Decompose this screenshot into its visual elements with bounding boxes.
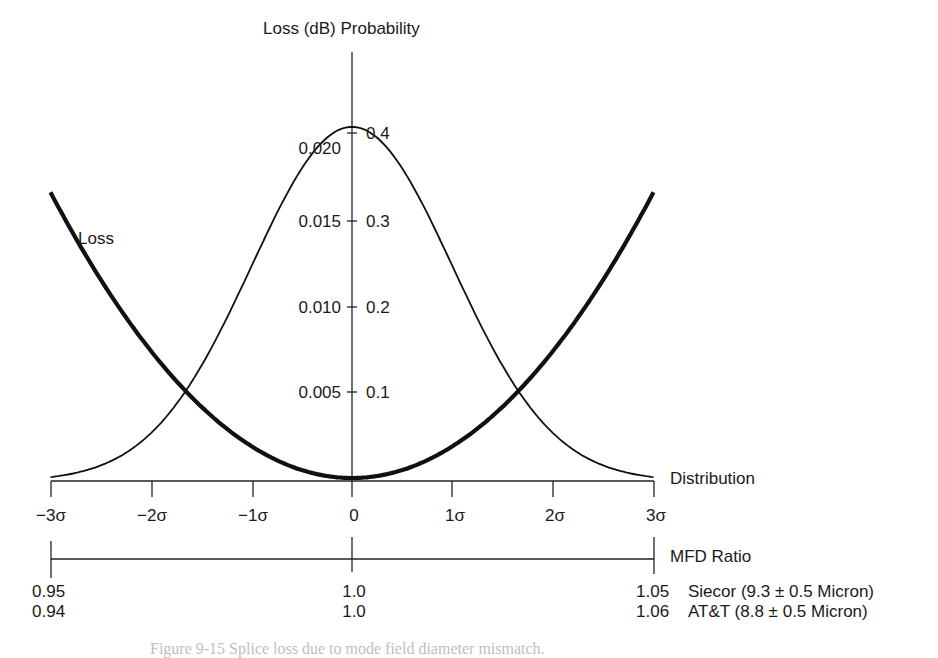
- prob-tick-label: 0.2: [366, 299, 390, 316]
- legend-att: AT&T (8.8 ± 0.5 Micron): [688, 603, 868, 620]
- x-tick-label: 1σ: [445, 507, 465, 524]
- prob-tick-label: 0.4: [366, 125, 390, 142]
- loss-curve-label: Loss: [78, 230, 114, 247]
- loss-tick-label: 0.005: [283, 384, 341, 401]
- mfd-value-att-left: 0.94: [32, 603, 65, 620]
- top-axis-label: Loss (dB) Probability: [263, 20, 420, 37]
- x-tick-label: −3σ: [36, 507, 66, 524]
- chart-canvas: [0, 0, 938, 658]
- mfd-ticks: [51, 537, 654, 578]
- mfd-value-siecor-right: 1.05: [636, 583, 669, 600]
- distribution-label: Distribution: [670, 470, 755, 487]
- x-tick-label: 2σ: [545, 507, 565, 524]
- mfd-value-siecor-left: 0.95: [32, 583, 65, 600]
- prob-tick-label: 0.3: [366, 213, 390, 230]
- mfd-ratio-label: MFD Ratio: [670, 548, 751, 565]
- mfd-value-att-right: 1.06: [636, 603, 669, 620]
- loss-tick-label: 0.010: [283, 299, 341, 316]
- prob-tick-label: 0.1: [366, 384, 390, 401]
- x-ticks: [51, 481, 654, 497]
- x-tick-label: −2σ: [137, 507, 167, 524]
- x-tick-label: 0: [349, 507, 358, 524]
- mfd-value-att-center: 1.0: [342, 603, 366, 620]
- legend-siecor: Siecor (9.3 ± 0.5 Micron): [688, 583, 874, 600]
- figure-caption: Figure 9-15 Splice loss due to mode fiel…: [150, 640, 545, 658]
- loss-tick-label: 0.020: [283, 140, 341, 157]
- x-tick-label: −1σ: [238, 507, 268, 524]
- mfd-value-siecor-center: 1.0: [342, 583, 366, 600]
- loss-tick-label: 0.015: [283, 213, 341, 230]
- x-tick-label: 3σ: [646, 507, 666, 524]
